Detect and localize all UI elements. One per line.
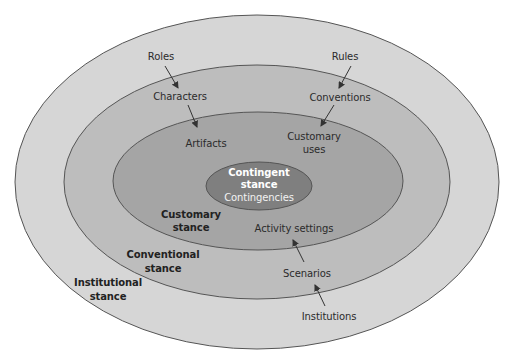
label-roles: Roles [148, 50, 174, 63]
label-customary-stance-line2: stance [173, 221, 210, 234]
label-conventional-stance-line1: Conventional [127, 248, 200, 261]
label-contingencies: Contingencies [224, 191, 294, 204]
label-conventional-stance-line2: stance [145, 262, 182, 275]
label-activity-settings: Activity settings [255, 222, 334, 235]
label-contingent-stance-line2: stance [241, 178, 278, 191]
label-conventions: Conventions [309, 91, 370, 104]
label-institutional-stance-line2: stance [90, 290, 127, 303]
label-customary-stance-line1: Customary [161, 208, 221, 221]
label-rules: Rules [332, 50, 358, 63]
label-artifacts: Artifacts [185, 137, 226, 150]
label-institutions: Institutions [302, 310, 357, 323]
label-scenarios: Scenarios [283, 267, 331, 280]
label-customary-uses-line1: Customary [287, 130, 341, 143]
label-characters: Characters [153, 90, 207, 103]
label-customary-uses-line2: uses [303, 143, 326, 156]
label-institutional-stance-line1: Institutional [74, 276, 142, 289]
